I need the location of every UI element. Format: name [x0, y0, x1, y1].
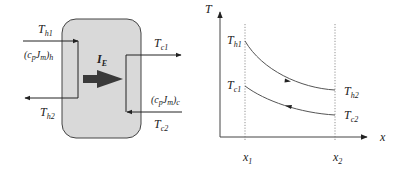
- label-tc1: Tc1: [227, 78, 241, 94]
- label-hot-outlet-temp: Th2: [40, 105, 55, 121]
- hot-stream-curve: [245, 41, 335, 90]
- temperature-profile-chart: T x Th1 Tc1 Th2 Tc2 x1 x2: [205, 2, 386, 166]
- heat-exchanger: Th1 (cpJm)h Th2 IE Tc1 (cpJm)c Tc2: [23, 19, 182, 138]
- label-tc2: Tc2: [344, 108, 358, 124]
- label-cold-capacity-rate: (cpJm)c: [151, 94, 180, 107]
- diagram-canvas: Th1 (cpJm)h Th2 IE Tc1 (cpJm)c Tc2 T x: [0, 0, 401, 173]
- label-th2: Th2: [344, 84, 359, 100]
- y-axis-label: T: [205, 2, 213, 16]
- cold-stream-curve: [245, 86, 335, 115]
- label-th1: Th1: [227, 33, 242, 49]
- x-axis-label: x: [379, 130, 386, 144]
- label-cold-inlet-temp: Tc2: [154, 117, 168, 133]
- label-cold-outlet-temp: Tc1: [154, 36, 168, 52]
- x-tick-x2: x2: [332, 150, 342, 166]
- label-hot-inlet-temp: Th1: [38, 22, 53, 38]
- cold-curve-direction-arrow-icon: [285, 105, 292, 109]
- label-hot-capacity-rate: (cpJm)h: [24, 49, 53, 62]
- x-tick-x1: x1: [242, 150, 252, 166]
